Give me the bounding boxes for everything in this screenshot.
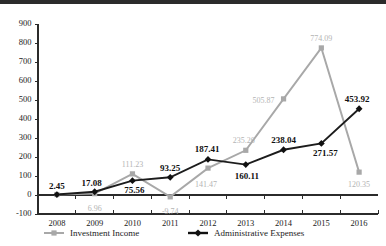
- y-tick-label: 500: [19, 94, 32, 104]
- data-point-marker: [319, 45, 324, 50]
- x-tick-label: 2016: [351, 218, 368, 228]
- data-point-label: 235.26: [233, 136, 255, 145]
- y-tick-label: 300: [19, 132, 32, 142]
- chart-figure: -1000100200300400500600700800900 2008200…: [0, 0, 386, 246]
- legend-label: Investment Income: [70, 228, 139, 238]
- data-point-marker: [168, 194, 173, 199]
- data-point-label: 505.87: [253, 96, 275, 105]
- line-chart: -1000100200300400500600700800900 2008200…: [0, 0, 386, 246]
- x-tick-label: 2008: [48, 218, 65, 228]
- y-tick-label: 800: [19, 37, 32, 47]
- legend-item-administrative-expenses: Administrative Expenses: [188, 228, 305, 238]
- data-point-label: 774.09: [310, 34, 332, 43]
- y-axis: -1000100200300400500600700800900: [16, 18, 38, 218]
- y-tick-label: 0: [27, 189, 31, 199]
- data-point-label: 111.23: [122, 160, 143, 169]
- data-point-label: 6.96: [88, 204, 102, 213]
- data-point-marker: [357, 170, 362, 175]
- data-point-marker: [281, 96, 286, 101]
- data-point-label: 453.92: [345, 94, 370, 104]
- legend-label: Administrative Expenses: [214, 228, 305, 238]
- data-point-label: 120.35: [348, 180, 370, 189]
- legend-swatch-marker: [194, 229, 201, 236]
- legend-swatch-marker: [51, 230, 56, 235]
- data-point-marker: [243, 148, 248, 153]
- y-tick-label: -100: [16, 208, 32, 218]
- data-point-marker: [167, 174, 174, 181]
- data-point-label: 17.08: [82, 178, 103, 188]
- data-point-marker: [242, 161, 249, 168]
- y-tick-label: 100: [19, 170, 32, 180]
- data-point-marker: [205, 156, 212, 163]
- y-tick-label: 200: [19, 151, 32, 161]
- x-tick-label: 2015: [313, 218, 330, 228]
- y-tick-label: 600: [19, 75, 32, 85]
- legend-item-investment-income: Investment Income: [44, 228, 139, 238]
- data-point-marker: [130, 171, 135, 176]
- data-point-marker: [280, 146, 287, 153]
- data-point-label: -9.74: [162, 207, 179, 216]
- y-tick-label: 400: [19, 113, 32, 123]
- series-line-investment-income: [57, 48, 359, 197]
- data-point-label: 141.47: [195, 180, 217, 189]
- data-point-label: 2.45: [49, 181, 65, 191]
- data-point-marker: [205, 166, 210, 171]
- data-point-label: 271.57: [313, 148, 338, 158]
- data-point-label: 160.11: [235, 171, 260, 181]
- x-tick-label: 2011: [162, 218, 179, 228]
- series-markers-investment-income: [54, 45, 361, 199]
- y-tick-label: 900: [19, 18, 32, 28]
- data-point-marker: [129, 177, 136, 184]
- y-tick-label: 700: [19, 56, 32, 66]
- data-point-label: 93.25: [160, 163, 181, 173]
- data-point-label: 187.41: [195, 144, 220, 154]
- chart-legend: Investment IncomeAdministrative Expenses: [44, 228, 305, 238]
- data-point-label: 75.56: [124, 185, 145, 195]
- data-point-label: 238.04: [271, 135, 296, 145]
